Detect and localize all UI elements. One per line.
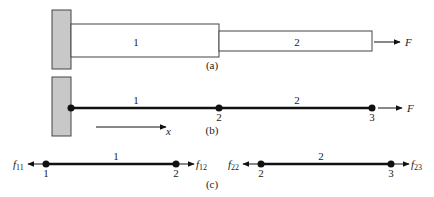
element-1-label-c: 1 [113,150,119,162]
node-3-label-c: 3 [388,167,394,179]
force-f11-label: f11 [13,158,24,172]
panel-a: 1 2 F (a) [52,10,412,72]
force-label-b: F [406,102,414,114]
caption-a: (a) [206,59,219,72]
fem-bar-diagram: 1 2 F (a) 1 2 2 3 F x (b) 1 1 2 f11 f12 … [0,0,434,197]
wall-support-a [52,10,71,69]
caption-c: (c) [206,178,219,191]
force-f12-label: f12 [196,158,207,172]
element-2-label-c: 2 [318,150,324,162]
node-1-dot-b [68,105,75,112]
node-2-label-b: 2 [216,111,222,123]
force-f22-label: f22 [228,158,239,172]
force-f23-label: f23 [411,158,422,172]
bar-element-1 [71,24,219,57]
node-3-label-b: 3 [369,111,375,123]
element-1-label-b: 1 [133,94,139,106]
panel-c: 1 1 2 f11 f12 (c) 2 2 3 f22 f23 [13,150,422,191]
element-1-label-a: 1 [133,36,139,48]
node-1-label-c: 1 [43,167,49,179]
element-2-label-a: 2 [294,36,300,48]
force-label-a: F [404,36,412,48]
node-2-label-c2: 2 [258,167,264,179]
element-2-label-b: 2 [294,94,300,106]
node-2-label-c1: 2 [173,167,179,179]
caption-b: (b) [206,124,219,137]
panel-b: 1 2 2 3 F x (b) [52,77,414,137]
x-axis-label: x [165,125,171,137]
